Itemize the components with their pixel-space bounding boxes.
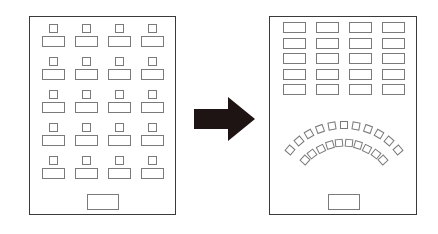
student-desk	[382, 84, 405, 95]
student-chair	[327, 121, 336, 130]
student-desk	[42, 102, 65, 113]
student-desk	[316, 84, 339, 95]
student-chair	[304, 129, 315, 140]
student-chair	[335, 139, 344, 148]
student-desk	[382, 22, 405, 33]
student-desk	[75, 135, 98, 146]
student-chair	[115, 156, 124, 165]
student-chair	[49, 24, 58, 33]
student-desk	[283, 53, 306, 64]
room-after: Desk block at back with semicircle of ch…	[269, 16, 417, 215]
student-desk	[108, 69, 131, 80]
student-desk	[141, 102, 164, 113]
student-chair	[148, 24, 157, 33]
student-chair	[363, 124, 373, 134]
student-desk	[75, 102, 98, 113]
student-desk	[349, 69, 372, 80]
student-chair	[49, 57, 58, 66]
student-chair	[82, 123, 91, 132]
student-desk	[349, 38, 372, 49]
student-chair	[315, 143, 326, 154]
student-desk	[283, 84, 306, 95]
diagram-title: Classroom layout transformation	[0, 0, 1, 1]
student-desk	[141, 69, 164, 80]
student-chair	[325, 140, 335, 150]
student-desk	[42, 135, 65, 146]
student-desk	[382, 69, 405, 80]
student-chair	[352, 121, 361, 130]
student-chair	[148, 123, 157, 132]
student-chair	[82, 156, 91, 165]
student-desk	[108, 102, 131, 113]
student-desk	[349, 53, 372, 64]
student-desk	[108, 135, 131, 146]
student-desk	[75, 36, 98, 47]
room-before: Rows of individual desks with chairs	[29, 16, 176, 215]
student-chair	[115, 123, 124, 132]
student-desk	[316, 22, 339, 33]
room-before-label: Rows of individual desks with chairs	[30, 17, 31, 18]
student-chair	[148, 90, 157, 99]
student-desk	[316, 53, 339, 64]
teacher-desk	[328, 194, 360, 210]
student-chair	[49, 123, 58, 132]
student-chair	[115, 90, 124, 99]
right-arrow-icon	[192, 95, 258, 143]
student-chair	[115, 24, 124, 33]
student-desk	[42, 69, 65, 80]
student-desk	[108, 168, 131, 179]
student-desk	[316, 69, 339, 80]
student-desk	[42, 168, 65, 179]
student-desk	[382, 53, 405, 64]
student-desk	[382, 38, 405, 49]
student-chair	[340, 121, 348, 129]
student-chair	[293, 136, 304, 147]
student-desk	[141, 168, 164, 179]
student-chair	[82, 90, 91, 99]
student-desk	[42, 36, 65, 47]
student-chair	[285, 144, 296, 155]
student-desk	[283, 38, 306, 49]
student-desk	[283, 69, 306, 80]
teacher-desk	[87, 194, 119, 210]
student-chair	[383, 136, 394, 147]
student-desk	[349, 84, 372, 95]
student-chair	[344, 139, 353, 148]
student-desk	[75, 69, 98, 80]
room-after-label: Desk block at back with semicircle of ch…	[270, 17, 271, 18]
student-desk	[283, 22, 306, 33]
student-chair	[82, 57, 91, 66]
student-chair	[49, 90, 58, 99]
student-chair	[82, 24, 91, 33]
student-desk	[108, 36, 131, 47]
student-chair	[315, 124, 325, 134]
student-chair	[148, 57, 157, 66]
student-desk	[349, 22, 372, 33]
student-chair	[374, 129, 385, 140]
student-desk	[141, 36, 164, 47]
student-chair	[49, 156, 58, 165]
student-desk	[75, 168, 98, 179]
student-desk	[141, 135, 164, 146]
student-desk	[316, 38, 339, 49]
student-chair	[115, 57, 124, 66]
student-chair	[148, 156, 157, 165]
student-chair	[392, 144, 403, 155]
